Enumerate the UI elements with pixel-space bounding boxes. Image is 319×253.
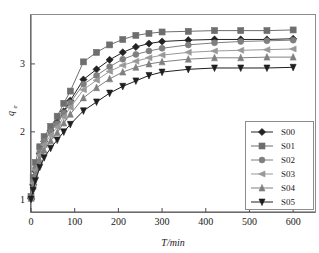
marker-circle: [146, 48, 152, 54]
marker-square: [212, 28, 218, 34]
marker-square: [259, 143, 265, 149]
y-tick-label: 2: [20, 126, 25, 137]
kinetics-line-chart: 0100200300400500600123 S00S01S02S03S04S0…: [0, 0, 319, 253]
x-tick-label: 300: [155, 216, 170, 227]
marker-circle: [212, 40, 218, 46]
marker-circle: [133, 51, 139, 57]
legend-label-s01: S01: [281, 141, 295, 151]
marker-square: [120, 36, 126, 42]
marker-square: [238, 28, 244, 34]
marker-square: [290, 27, 296, 33]
x-tick-label: 200: [111, 216, 126, 227]
marker-square: [185, 28, 191, 34]
y-axis-title-base: q: [5, 111, 16, 116]
legend-label-s05: S05: [281, 197, 296, 207]
x-axis-title: T/min: [161, 237, 184, 248]
chart-figure: 0100200300400500600123 S00S01S02S03S04S0…: [0, 0, 319, 253]
marker-circle: [80, 81, 86, 87]
x-tick-label: 400: [198, 216, 213, 227]
marker-square: [80, 59, 86, 65]
marker-square: [264, 28, 270, 34]
marker-circle: [259, 157, 265, 163]
x-tick-label: 600: [286, 216, 301, 227]
marker-circle: [290, 37, 296, 43]
y-tick-label: 1: [20, 194, 25, 205]
y-axis-title-subscript: e: [11, 105, 19, 108]
y-tick-label: 3: [20, 58, 25, 69]
marker-square: [133, 32, 139, 38]
x-tick-label: 500: [242, 216, 257, 227]
marker-square: [61, 100, 67, 106]
marker-square: [94, 49, 100, 55]
marker-circle: [120, 56, 126, 62]
marker-square: [54, 113, 60, 119]
chart-legend[interactable]: S00S01S02S03S04S05: [246, 122, 314, 210]
legend-label-s00: S00: [281, 127, 296, 137]
legend-box: [246, 122, 314, 210]
legend-label-s02: S02: [281, 155, 295, 165]
legend-label-s03: S03: [281, 169, 296, 179]
x-tick-label: 0: [29, 216, 34, 227]
marker-circle: [264, 38, 270, 44]
marker-circle: [159, 45, 165, 51]
x-tick-label: 100: [67, 216, 82, 227]
marker-square: [107, 42, 113, 48]
legend-label-s04: S04: [281, 183, 296, 193]
marker-square: [67, 88, 73, 94]
marker-circle: [238, 38, 244, 44]
marker-square: [146, 30, 152, 36]
marker-square: [159, 29, 165, 35]
marker-circle: [185, 42, 191, 48]
